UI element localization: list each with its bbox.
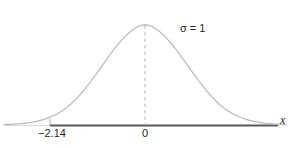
sigma-annotation: σ = 1 [180,23,205,34]
x-axis-label: x [280,114,285,126]
x-tick-label-negative-2-14: −2.14 [24,128,80,139]
normal-distribution-chart: σ = 1 −2.14 0 x [0,0,296,148]
x-tick-label-zero: 0 [125,128,165,139]
chart-canvas [0,0,296,148]
